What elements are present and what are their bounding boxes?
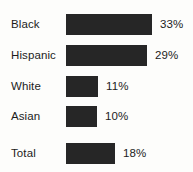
bar-track	[66, 75, 98, 97]
bar-row: White 11%	[0, 75, 193, 97]
bar-row: Black 33%	[0, 13, 193, 35]
category-label: White	[11, 75, 41, 97]
category-label: Black	[11, 13, 40, 35]
value-label: 18%	[123, 142, 146, 164]
bar-row: Asian 10%	[0, 105, 193, 127]
bar-track	[66, 44, 147, 66]
bar-fill	[66, 45, 147, 66]
bar-track	[66, 142, 115, 164]
bar-row: Total 18%	[0, 142, 193, 164]
bar-fill	[66, 106, 97, 127]
bar-fill	[66, 14, 152, 35]
category-label: Hispanic	[11, 44, 56, 66]
value-label: 11%	[106, 75, 128, 97]
bar-chart: Black 33% Hispanic 29% White 11% Asian 1…	[0, 0, 193, 172]
bar-track	[66, 13, 152, 35]
value-label: 33%	[160, 13, 183, 35]
value-label: 29%	[155, 44, 178, 66]
bar-fill	[66, 143, 115, 164]
category-label: Asian	[11, 105, 40, 127]
bar-track	[66, 105, 97, 127]
bar-row: Hispanic 29%	[0, 44, 193, 66]
value-label: 10%	[105, 105, 128, 127]
bar-fill	[66, 76, 98, 97]
category-label: Total	[11, 142, 36, 164]
